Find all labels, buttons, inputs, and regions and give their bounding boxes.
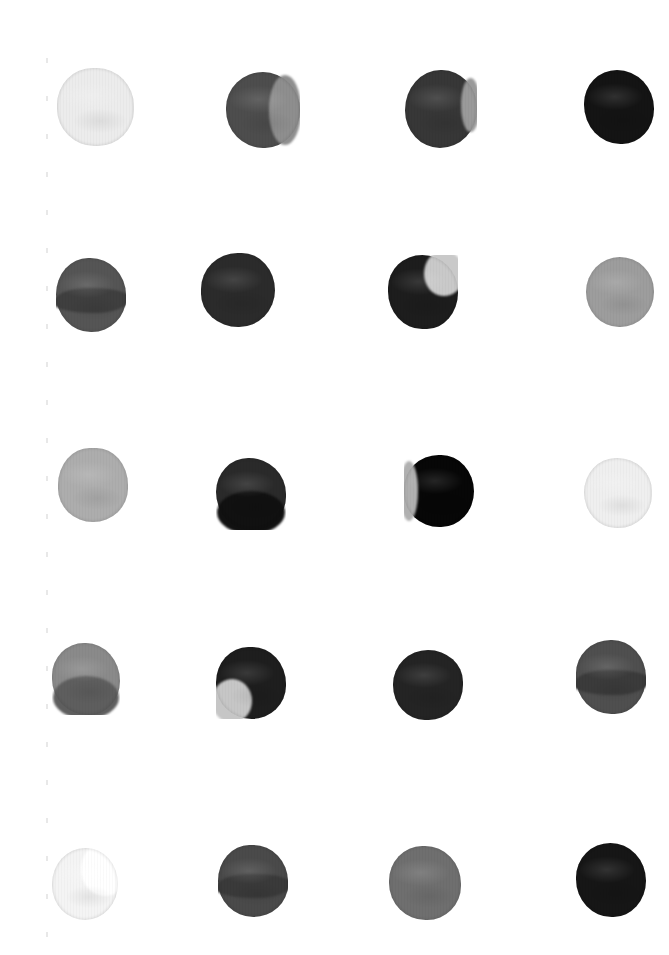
margin-tick-mark [46, 666, 48, 671]
margin-tick-mark [46, 210, 48, 215]
dot-r4c3 [393, 650, 463, 720]
ink-dot-base [389, 846, 461, 920]
ink-dot-overlay [424, 255, 458, 296]
dot-r2c1 [56, 258, 126, 332]
ink-dot-base [57, 68, 134, 146]
dot-r4c4 [576, 640, 646, 714]
ink-dot [584, 70, 654, 144]
ink-dot [57, 68, 134, 146]
ink-dot [56, 258, 126, 332]
margin-tick-mark [46, 742, 48, 747]
ink-dot-overlay [56, 288, 126, 313]
ink-dot [389, 846, 461, 920]
dot-r1c3 [405, 70, 477, 148]
dot-r1c1 [57, 68, 134, 146]
ink-dot-base [586, 257, 654, 327]
dot-r5c3 [389, 846, 461, 920]
ink-dot [216, 458, 286, 530]
dot-r2c2 [201, 253, 275, 327]
ink-dot-base [576, 843, 646, 917]
ink-dot [388, 255, 458, 329]
dot-r3c1 [58, 448, 128, 522]
ink-dot [405, 70, 477, 148]
margin-tick-mark [46, 590, 48, 595]
margin-tick-mark [46, 172, 48, 177]
ink-dot-overlay [218, 874, 288, 898]
ink-dot [58, 448, 128, 522]
ink-dot-overlay [53, 676, 118, 715]
ink-dot [218, 845, 288, 917]
ink-dot-base [584, 70, 654, 144]
margin-tick-mark [46, 894, 48, 899]
margin-tick-mark [46, 96, 48, 101]
margin-tick-mark [46, 438, 48, 443]
ink-dot-overlay [461, 78, 477, 133]
margin-tick-mark [46, 704, 48, 709]
dot-r2c4 [586, 257, 654, 327]
ink-dot [52, 643, 120, 715]
dot-r4c2 [216, 647, 286, 719]
margin-tick-mark [46, 400, 48, 405]
dot-r3c4 [584, 458, 652, 528]
margin-tick-mark [46, 514, 48, 519]
margin-tick-mark [46, 856, 48, 861]
dot-r3c2 [216, 458, 286, 530]
dot-r5c4 [576, 843, 646, 917]
dot-r2c3 [388, 255, 458, 329]
margin-tick-mark [46, 324, 48, 329]
margin-tick-mark [46, 286, 48, 291]
ink-dot [226, 72, 300, 148]
margin-tick-mark [46, 134, 48, 139]
ink-dot [586, 257, 654, 327]
ink-dot-base [393, 650, 463, 720]
ink-dot-base [201, 253, 275, 327]
ink-dot-overlay [217, 491, 284, 530]
margin-tick-mark [46, 552, 48, 557]
ink-dot-base [584, 458, 652, 528]
margin-tick-mark [46, 818, 48, 823]
dot-r5c1 [52, 848, 118, 920]
margin-tick-mark [46, 248, 48, 253]
margin-tick-mark [46, 780, 48, 785]
ink-dot-overlay [576, 670, 646, 695]
dot-r1c4 [584, 70, 654, 144]
margin-tick-mark [46, 628, 48, 633]
margin-tick-mark [46, 932, 48, 937]
ink-dot-overlay [269, 75, 300, 145]
ink-dot [576, 843, 646, 917]
dot-r3c3 [404, 455, 474, 527]
ink-dot [584, 458, 652, 528]
ink-dot [52, 848, 118, 920]
ink-dot [201, 253, 275, 327]
dot-r1c2 [226, 72, 300, 148]
ink-dot [576, 640, 646, 714]
dot-r5c2 [218, 845, 288, 917]
ink-dot [404, 455, 474, 527]
margin-tick-mark [46, 476, 48, 481]
ink-dot [393, 650, 463, 720]
margin-tick-mark [46, 362, 48, 367]
dot-r4c1 [52, 643, 120, 715]
margin-tick-mark [46, 58, 48, 63]
scanned-page [0, 0, 669, 955]
ink-dot-base [58, 448, 128, 522]
ink-dot [216, 647, 286, 719]
